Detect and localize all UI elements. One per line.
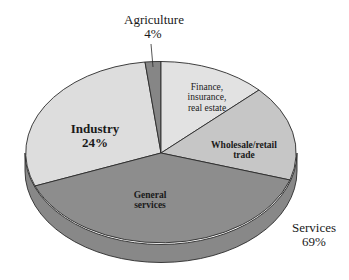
label-wholesale: Wholesale/retail trade [204,140,284,161]
general-line-2: services [125,200,175,210]
label-services: Services 69% [284,221,344,249]
services-name: Services [284,221,344,235]
agriculture-name: Agriculture [124,13,182,27]
wholesale-line-2: trade [204,150,284,160]
industry-name: Industry [60,122,130,136]
label-finance: Finance, insurance, real estate [172,82,242,113]
general-line-1: General [125,190,175,200]
label-general-services: General services [125,190,175,211]
industry-pct: 24% [60,136,130,150]
finance-line-1: Finance, [172,82,242,92]
finance-line-3: real estate [172,103,242,113]
wholesale-line-1: Wholesale/retail [204,140,284,150]
agriculture-pct: 4% [124,27,182,41]
finance-line-2: insurance, [172,92,242,102]
services-pct: 69% [284,235,344,249]
label-agriculture: Agriculture 4% [124,13,182,41]
label-industry: Industry 24% [60,122,130,150]
